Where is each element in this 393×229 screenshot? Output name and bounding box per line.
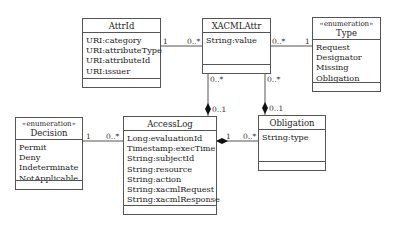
multiplicity-label: 0..1: [269, 105, 283, 113]
enum-literal: Request: [316, 42, 377, 52]
attribute: String:type: [262, 132, 322, 142]
enum-literal: Indeterminate: [19, 162, 79, 172]
enum-literal: Missing: [316, 62, 377, 72]
class-attributes: Long:evaluationId Timestamp:execTime Str…: [124, 131, 216, 206]
enum-name: Type: [336, 28, 357, 38]
multiplicity-label: 0..*: [210, 76, 223, 84]
class-attributes: String:value: [203, 33, 270, 47]
operations-compartment: [259, 161, 325, 170]
stereotype: «enumeration»: [16, 120, 82, 128]
attribute: String:value: [206, 35, 267, 45]
multiplicity-label: 1: [86, 133, 91, 141]
enum-literal: Deny: [19, 152, 79, 162]
enum-literals: Request Designator Missing Obligation: [313, 40, 380, 85]
multiplicity-label: 1: [305, 38, 310, 46]
composition-diamond-icon: [205, 103, 211, 115]
enum-literals: Permit Deny Indeterminate NotApplicable: [16, 140, 82, 185]
attribute: Long:evaluationId: [127, 133, 213, 143]
multiplicity-label: 0..*: [106, 133, 119, 141]
multiplicity-label: 0..*: [272, 38, 285, 46]
class-xacmlattr[interactable]: XACMLAttr String:value: [202, 18, 271, 74]
operations-compartment: [124, 205, 216, 214]
multiplicity-label: 1: [226, 133, 231, 141]
multiplicity-label: 0..*: [243, 133, 256, 141]
enum-literal: Designator: [316, 52, 377, 62]
class-name: «enumeration» Decision: [16, 118, 82, 140]
class-name: «enumeration» Type: [313, 18, 380, 40]
attribute: URI:attributeType: [86, 45, 157, 55]
attribute: String:subjectId: [127, 153, 213, 163]
class-obligation[interactable]: Obligation String:type: [258, 115, 326, 171]
class-accesslog[interactable]: AccessLog Long:evaluationId Timestamp:ex…: [123, 116, 217, 215]
operations-compartment: [313, 82, 380, 91]
class-attributes: String:type: [259, 130, 325, 144]
attribute: URI:issuer: [86, 66, 157, 76]
attribute: String:resource: [127, 164, 213, 174]
enum-name: Decision: [31, 128, 68, 138]
attribute: String:action: [127, 174, 213, 184]
class-name: AttrId: [83, 19, 160, 33]
attribute: Timestamp:execTime: [127, 143, 213, 153]
class-name: XACMLAttr: [203, 19, 270, 33]
enum-decision[interactable]: «enumeration» Decision Permit Deny Indet…: [15, 117, 83, 190]
attribute: String:xacmlRequest: [127, 184, 213, 194]
operations-compartment: [83, 78, 160, 87]
operations-compartment: [203, 64, 270, 73]
class-attributes: URI:category URI:attributeType URI:attri…: [83, 33, 160, 78]
class-name: AccessLog: [124, 117, 216, 131]
enum-type[interactable]: «enumeration» Type Request Designator Mi…: [312, 17, 381, 92]
operations-compartment: [16, 180, 82, 189]
enum-literal: Permit: [19, 142, 79, 152]
multiplicity-label: 0..*: [267, 76, 280, 84]
class-name: Obligation: [259, 116, 325, 130]
multiplicity-label: 1: [163, 38, 168, 46]
class-attrid[interactable]: AttrId URI:category URI:attributeType UR…: [82, 18, 161, 88]
attribute: String:xacmlResponse: [127, 194, 213, 204]
multiplicity-label: 0..*: [187, 38, 200, 46]
attribute: URI:category: [86, 35, 157, 45]
stereotype: «enumeration»: [313, 20, 380, 28]
multiplicity-label: 0..1: [212, 106, 226, 114]
attribute: URI:attributeId: [86, 55, 157, 65]
composition-diamond-icon: [262, 102, 268, 114]
